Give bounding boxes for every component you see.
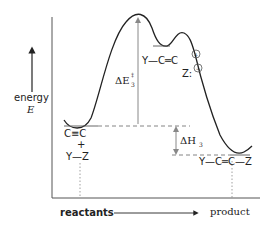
y-axis-label: energy <box>14 92 49 103</box>
reactant-plus-label: + <box>77 139 85 150</box>
minus-charge-text: − <box>196 65 201 72</box>
enthalpy-label: ΔH <box>180 135 196 146</box>
energy-diagram: energy E ΔE ‡ 3 ΔH 3 Y—C═C + Z: − C≡C + … <box>0 0 280 232</box>
enthalpy-subscript: 3 <box>199 141 203 148</box>
plus-charge-text: + <box>194 51 199 58</box>
x-axis-start-label: reactants <box>60 207 114 218</box>
activation-energy-label: ΔE <box>115 75 130 86</box>
diagram-canvas: energy E ΔE ‡ 3 ΔH 3 Y—C═C + Z: − C≡C + … <box>0 0 280 232</box>
nucleophile-label: Z: <box>182 68 192 79</box>
product-label: Y—C═C—Z <box>198 156 252 167</box>
energy-curve <box>64 14 252 153</box>
intermediate-label: Y—C═C <box>141 55 178 66</box>
y-axis-symbol: E <box>26 104 35 115</box>
x-axis-end-label: product <box>210 206 250 217</box>
activation-energy-superscript: ‡ <box>131 71 134 78</box>
activation-energy-subscript: 3 <box>131 81 135 88</box>
reactant-alkyne-label: C≡C <box>64 128 86 139</box>
reactant-yz-label: Y—Z <box>65 151 89 162</box>
